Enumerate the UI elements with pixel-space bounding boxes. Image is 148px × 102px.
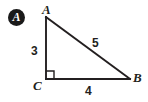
side-length-label-ac: 3 — [31, 45, 38, 57]
triangle-side-ab — [46, 17, 130, 79]
vertex-label-c: C — [33, 79, 42, 92]
triangle-diagram — [0, 0, 148, 102]
side-length-label-cb: 4 — [85, 85, 92, 97]
geometry-figure-screenshot: A A B C 3 5 4 — [0, 0, 148, 102]
vertex-label-a: A — [42, 3, 51, 16]
vertex-label-b: B — [133, 71, 142, 84]
side-length-label-ab: 5 — [92, 37, 99, 49]
right-angle-marker — [46, 71, 54, 79]
